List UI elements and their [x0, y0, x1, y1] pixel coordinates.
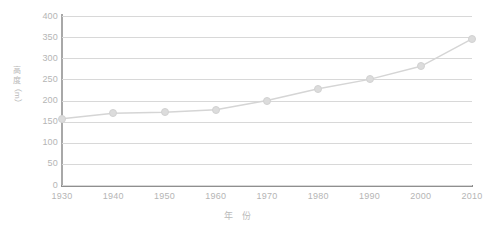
data-point-marker [58, 115, 66, 123]
x-axis-tick-label: 2000 [398, 192, 444, 201]
data-point-marker [263, 97, 271, 105]
data-point-marker [161, 108, 169, 116]
x-axis-tick-label: 2010 [449, 192, 487, 201]
x-axis-tick-label: 1960 [193, 192, 239, 201]
data-point-marker [366, 75, 374, 83]
x-axis-tick-label: 1930 [39, 192, 85, 201]
data-point-marker [468, 35, 476, 43]
data-point-marker [417, 62, 425, 70]
data-point-marker [314, 85, 322, 93]
data-point-marker [212, 106, 220, 114]
x-axis-tick-label: 1990 [347, 192, 393, 201]
x-axis-tick-label: 1940 [90, 192, 136, 201]
x-axis-tick-label: 1980 [295, 192, 341, 201]
x-axis-tick-label: 1970 [244, 192, 290, 201]
x-axis-title: 年 份 [0, 209, 478, 222]
x-axis-tick-label: 1950 [142, 192, 188, 201]
series-line [62, 39, 472, 119]
